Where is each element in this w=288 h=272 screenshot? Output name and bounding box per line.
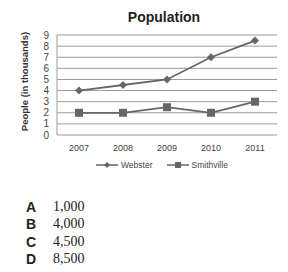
answer-choices: A1,000 B4,000 C4,500 D8,500 [26, 198, 85, 268]
answer-choice-b[interactable]: B4,000 [26, 216, 85, 234]
svg-text:0: 0 [43, 130, 49, 141]
svg-text:8: 8 [43, 41, 49, 52]
svg-text:2009: 2009 [157, 143, 177, 153]
svg-text:2011: 2011 [245, 143, 264, 153]
line-chart: 012345678920072008200920102011 [0, 0, 288, 160]
svg-text:2010: 2010 [201, 143, 221, 153]
svg-text:2: 2 [43, 107, 49, 118]
legend-item-smithville: Smithville [167, 160, 228, 170]
answer-choice-c[interactable]: C4,500 [26, 233, 85, 251]
legend-item-webster: Webster [96, 160, 153, 170]
svg-text:4: 4 [43, 85, 49, 96]
svg-text:2008: 2008 [113, 143, 133, 153]
svg-text:7: 7 [43, 52, 49, 63]
answer-choice-d[interactable]: D8,500 [26, 251, 85, 269]
svg-text:1: 1 [43, 118, 49, 129]
svg-text:9: 9 [43, 30, 49, 41]
answer-choice-a[interactable]: A1,000 [26, 198, 85, 216]
square-marker-icon [167, 161, 189, 169]
svg-text:5: 5 [43, 74, 49, 85]
diamond-marker-icon [96, 161, 118, 169]
svg-text:6: 6 [43, 63, 49, 74]
svg-text:3: 3 [43, 96, 49, 107]
legend: Webster Smithville [96, 160, 228, 170]
svg-text:2007: 2007 [69, 143, 89, 153]
legend-label: Smithville [192, 160, 228, 170]
legend-label: Webster [121, 160, 153, 170]
